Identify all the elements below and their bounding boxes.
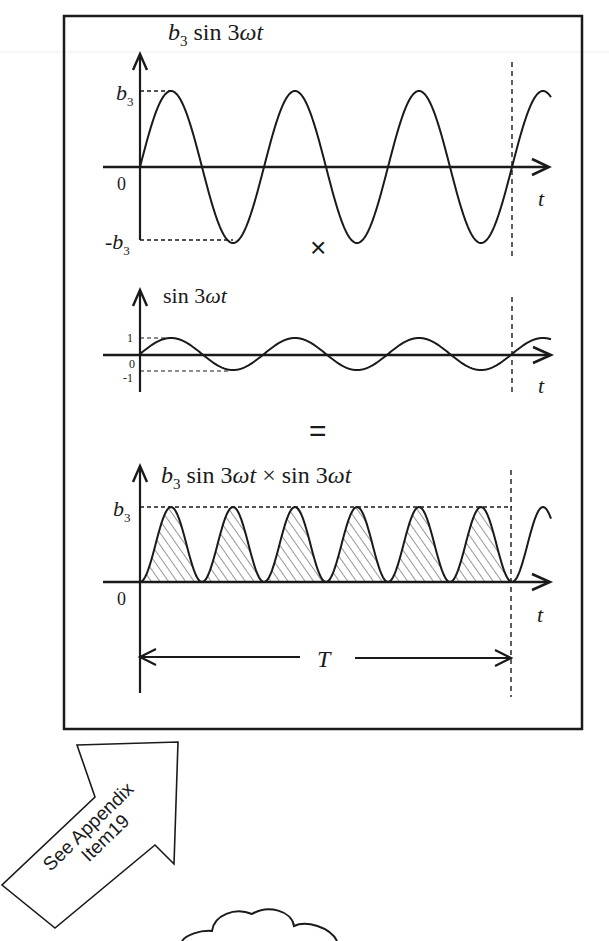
- panel-middle: sin 3ωt 1 0 -1 t: [103, 283, 551, 398]
- cloud-icon: [182, 909, 337, 941]
- x-label-t: t: [538, 373, 545, 398]
- figure-frame: [64, 16, 582, 729]
- y-label-zero: 0: [117, 174, 126, 194]
- equals-operator: =: [309, 414, 327, 447]
- y-label-zero: 0: [117, 589, 126, 609]
- fourier-product-diagram: b3 sin 3ωt b3 0 -b3 t × sin 3ωt 1 0 -1 t…: [0, 0, 609, 941]
- x-label-t: t: [538, 186, 545, 211]
- panel-title: b3 sin 3ωt: [168, 19, 264, 49]
- y-label-zero: 0: [129, 357, 135, 371]
- panel-bottom: b3 sin 3ωt × sin 3ωt b3 0 t T: [103, 462, 551, 693]
- panel-title: b3 sin 3ωt × sin 3ωt: [161, 462, 353, 492]
- multiply-operator: ×: [310, 232, 326, 263]
- panel-top: b3 sin 3ωt b3 0 -b3 t: [103, 19, 551, 258]
- y-label-b3: b3: [113, 496, 131, 525]
- y-label-neg-one: -1: [123, 371, 133, 385]
- y-label-b3: b3: [116, 80, 134, 109]
- y-label-one: 1: [127, 331, 133, 345]
- panel-title: sin 3ωt: [163, 283, 228, 308]
- see-appendix-callout[interactable]: See Appendix Item19: [2, 742, 178, 928]
- y-label-neg-b3: -b3: [105, 229, 130, 258]
- hatched-area: [140, 507, 512, 582]
- x-label-t: t: [537, 602, 544, 627]
- period-label: T: [317, 646, 332, 672]
